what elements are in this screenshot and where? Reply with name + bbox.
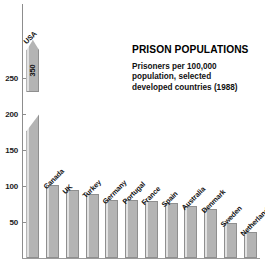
bar-spain[interactable]: Spain bbox=[165, 4, 178, 258]
bar-germany[interactable]: Germany bbox=[105, 4, 118, 258]
bar-netherlands[interactable]: Netherlands bbox=[244, 4, 257, 258]
title-block: PRISON POPULATIONS Prisoners per 100,000… bbox=[132, 44, 258, 93]
bar-portugal[interactable]: Portugal bbox=[125, 4, 138, 258]
y-axis-tick-label: 100 bbox=[5, 182, 18, 191]
bar-turkey[interactable]: Turkey bbox=[86, 4, 99, 258]
bar-value-label-usa: 350 bbox=[28, 59, 37, 82]
y-axis-tick-label: 200 bbox=[5, 110, 18, 119]
plot-area: 350USACanadaUKTurkeyGermanyPortugalFranc… bbox=[23, 4, 260, 258]
chart-subtitle-line: population, selected bbox=[132, 72, 258, 82]
y-axis-tick-label: 50 bbox=[10, 218, 19, 227]
bar-australia[interactable]: Australia bbox=[184, 4, 197, 258]
prison-populations-chart: 25020015010050 350USACanadaUKTurkeyGerma… bbox=[0, 0, 265, 277]
y-axis-tick-label: 150 bbox=[5, 146, 18, 155]
bar-rect bbox=[86, 194, 99, 258]
chart-subtitle-line: Prisoners per 100,000 bbox=[132, 62, 258, 72]
bar-uk[interactable]: UK bbox=[66, 4, 79, 258]
chart-title: PRISON POPULATIONS bbox=[132, 44, 258, 55]
bar-denmark[interactable]: Denmark bbox=[204, 4, 217, 258]
bar-rect bbox=[165, 203, 178, 258]
bar-rect bbox=[105, 200, 118, 258]
bar-usa[interactable]: 350USA bbox=[26, 4, 39, 258]
bar-canada[interactable]: Canada bbox=[46, 4, 59, 258]
bar-rect bbox=[204, 209, 217, 258]
bar-rect bbox=[66, 190, 79, 258]
bar-rect bbox=[184, 206, 197, 258]
y-axis-tick-label: 250 bbox=[5, 74, 18, 83]
bar-sweden[interactable]: Sweden bbox=[224, 4, 237, 258]
bar-rect bbox=[145, 201, 158, 258]
bar-rect bbox=[224, 223, 237, 258]
bar-rect bbox=[125, 200, 138, 258]
chart-subtitle-line: developed countries (1988) bbox=[132, 83, 258, 93]
bar-france[interactable]: France bbox=[145, 4, 158, 258]
x-axis-baseline bbox=[22, 258, 260, 259]
bar-rect bbox=[46, 185, 59, 258]
bar-usa-lower-segment bbox=[26, 114, 39, 258]
chart-subtitle: Prisoners per 100,000 population, select… bbox=[132, 62, 258, 93]
bar-category-label: USA bbox=[22, 29, 39, 46]
